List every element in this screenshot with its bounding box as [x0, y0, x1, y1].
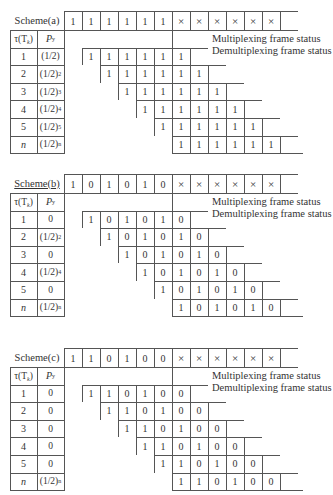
legend-demultiplexing: Demultiplexing frame status [212, 382, 332, 393]
tau-value: n [10, 136, 37, 154]
demux-cell: 0 [172, 246, 190, 264]
demux-cell: 1 [226, 118, 244, 136]
demux-cell: 1 [190, 65, 208, 83]
demux-cell: 0 [100, 211, 118, 229]
tau-value: 4 [10, 100, 37, 118]
demux-cell: 1 [100, 228, 118, 246]
tau-value: 2 [10, 65, 37, 83]
demux-cell: 0 [226, 455, 244, 473]
demux-cell: 1 [100, 48, 118, 66]
demux-cell: 0 [154, 263, 172, 281]
demux-cell: 0 [244, 455, 262, 473]
demux-cell: 0 [208, 246, 226, 264]
demux-cell: 1 [118, 65, 136, 83]
frame-cell: × [208, 12, 226, 30]
demux-cell: 1 [190, 437, 208, 455]
frame-cell: × [226, 12, 244, 30]
scheme-label: Scheme(b) [10, 174, 64, 193]
demux-cell: 1 [118, 83, 136, 101]
demux-cell: 1 [154, 100, 172, 118]
py-value: 0 [37, 211, 64, 229]
py-value: (1/2) [37, 48, 64, 66]
demux-cell: 0 [118, 385, 136, 403]
py-value: (1/2)2 [37, 65, 64, 83]
demux-cell: 1 [208, 118, 226, 136]
demux-cell: 0 [208, 281, 226, 299]
demux-cell: 1 [136, 228, 154, 246]
tau-value: 5 [10, 118, 37, 136]
py-value: (1/2)2 [37, 228, 64, 246]
demux-cell: 1 [82, 385, 100, 403]
demux-cell: 0 [208, 420, 226, 438]
demux-cell: 1 [244, 136, 262, 154]
demux-cell: 1 [100, 65, 118, 83]
demux-cell: 0 [244, 473, 262, 491]
py-value: 0 [37, 420, 64, 438]
demux-cell: 0 [190, 228, 208, 246]
demux-cell: 1 [226, 136, 244, 154]
demux-cell: 1 [154, 48, 172, 66]
demux-cell: 1 [208, 299, 226, 317]
divider [10, 316, 65, 317]
divider [262, 281, 263, 299]
demux-cell: 0 [154, 385, 172, 403]
divider [244, 437, 245, 455]
demux-cell: 1 [100, 402, 118, 420]
divider [172, 316, 303, 317]
py-value: 0 [37, 385, 64, 403]
demux-cell: 1 [244, 299, 262, 317]
demux-cell: 0 [226, 263, 244, 281]
demux-cell: 1 [82, 211, 100, 229]
divider [244, 100, 245, 118]
divider [280, 174, 281, 193]
py-value: (1/2)n [37, 299, 64, 317]
divider [208, 65, 209, 83]
demux-cell: 0 [262, 473, 280, 491]
py-header: Py [37, 30, 64, 48]
demux-cell: 1 [226, 100, 244, 118]
demux-cell: 1 [190, 83, 208, 101]
scheme-b: Scheme(b)101010××××××Multiplexing frame … [0, 163, 333, 323]
frame-cell: 0 [82, 175, 100, 193]
tau-value: 3 [10, 246, 37, 264]
frame-cell: × [244, 175, 262, 193]
legend-demultiplexing: Demultiplexing frame status [212, 208, 332, 219]
demux-cell: 1 [226, 473, 244, 491]
demux-cell: 0 [136, 402, 154, 420]
divider [208, 402, 209, 420]
demux-cell: 1 [136, 437, 154, 455]
demux-cell: 0 [172, 281, 190, 299]
demux-cell: 1 [154, 281, 172, 299]
frame-cell: × [262, 349, 280, 367]
scheme-label: Scheme(c) [10, 348, 64, 367]
legend-demultiplexing: Demultiplexing frame status [212, 45, 332, 56]
tau-value: 4 [10, 437, 37, 455]
divider [226, 246, 227, 264]
demux-cell: 1 [208, 100, 226, 118]
demux-cell: 1 [118, 402, 136, 420]
legend-multiplexing: Multiplexing frame status [212, 370, 320, 381]
frame-cell: 1 [100, 175, 118, 193]
divider [208, 228, 209, 246]
demux-cell: 1 [226, 281, 244, 299]
demux-cell: 1 [118, 211, 136, 229]
divider [190, 48, 191, 66]
demux-cell: 1 [136, 48, 154, 66]
demux-cell: 0 [118, 228, 136, 246]
tau-value: 2 [10, 402, 37, 420]
demux-cell: 0 [226, 437, 244, 455]
demux-cell: 0 [190, 420, 208, 438]
demux-cell: 0 [172, 211, 190, 229]
frame-cell: × [226, 349, 244, 367]
divider [280, 473, 281, 491]
demux-cell: 1 [172, 299, 190, 317]
demux-cell: 1 [190, 473, 208, 491]
tau-value: n [10, 473, 37, 491]
demux-cell: 0 [226, 299, 244, 317]
py-header: Py [37, 193, 64, 211]
frame-cell: 1 [82, 349, 100, 367]
frame-cell: × [190, 175, 208, 193]
frame-cell: × [172, 349, 190, 367]
divider [280, 136, 281, 154]
frame-cell: × [244, 349, 262, 367]
